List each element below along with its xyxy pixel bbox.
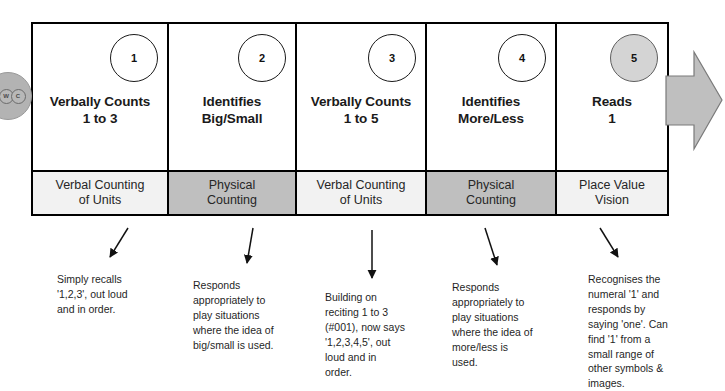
watermark-letters: W C — [0, 89, 26, 104]
connector-arrow-4 — [485, 228, 497, 265]
strand-row: Verbal Counting of Units Physical Counti… — [33, 170, 667, 214]
strand-cell-5[interactable]: Place Value Vision — [557, 170, 667, 214]
milestone-title-4: Identifies More/Less — [427, 94, 555, 128]
note-3: Building on reciting 1 to 3 (#001), now … — [325, 290, 437, 379]
strand-label-3: Verbal Counting of Units — [317, 178, 406, 209]
strand-label-4: Physical Counting — [466, 178, 516, 209]
milestone-title-1: Verbally Counts 1 to 3 — [33, 94, 167, 128]
watermark-letter-c: C — [11, 89, 26, 104]
milestone-title-5: Reads 1 — [557, 94, 667, 128]
milestone-card-3[interactable]: 3 Verbally Counts 1 to 5 — [297, 24, 427, 170]
connector-arrow-1 — [110, 228, 128, 257]
connector-arrow-2 — [247, 228, 253, 263]
step-badge-4: 4 — [498, 34, 546, 82]
strand-label-5: Place Value Vision — [579, 178, 645, 209]
strand-cell-3[interactable]: Verbal Counting of Units — [297, 170, 427, 214]
strand-label-2: Physical Counting — [207, 178, 257, 209]
connector-arrow-5 — [600, 228, 618, 257]
watermark-badge: W C — [0, 72, 32, 120]
progression-arrow-icon — [664, 48, 724, 153]
note-2: Responds appropriately to play situation… — [193, 278, 309, 353]
milestone-card-5[interactable]: 5 Reads 1 — [557, 24, 667, 170]
note-1: Simply recalls '1,2,3', out loud and in … — [57, 272, 169, 317]
milestone-card-2[interactable]: 2 Identifies Big/Small — [169, 24, 297, 170]
step-badge-2: 2 — [238, 34, 286, 82]
milestone-title-2: Identifies Big/Small — [169, 94, 295, 128]
milestone-card-1[interactable]: 1 Verbally Counts 1 to 3 — [33, 24, 169, 170]
strand-label-1: Verbal Counting of Units — [56, 178, 145, 209]
milestone-card-4[interactable]: 4 Identifies More/Less — [427, 24, 557, 170]
note-4: Responds appropriately to play situation… — [452, 280, 564, 369]
milestone-row: 1 Verbally Counts 1 to 3 2 Identifies Bi… — [33, 24, 667, 170]
step-badge-3: 3 — [368, 34, 416, 82]
step-badge-5: 5 — [610, 34, 658, 82]
strand-cell-1[interactable]: Verbal Counting of Units — [33, 170, 169, 214]
milestone-title-3: Verbally Counts 1 to 5 — [297, 94, 425, 128]
strand-cell-2[interactable]: Physical Counting — [169, 170, 297, 214]
strand-cell-4[interactable]: Physical Counting — [427, 170, 557, 214]
note-5: Recognises the numeral '1' and responds … — [588, 272, 700, 391]
progression-table: 1 Verbally Counts 1 to 3 2 Identifies Bi… — [31, 22, 669, 216]
step-badge-1: 1 — [110, 34, 158, 82]
